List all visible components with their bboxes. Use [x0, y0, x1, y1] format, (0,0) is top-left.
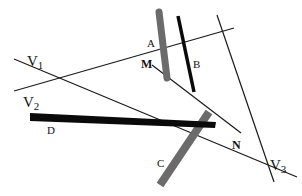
bar-d — [30, 113, 216, 128]
bar-a — [159, 12, 167, 78]
label-m: M — [141, 57, 152, 71]
label-b: B — [193, 58, 200, 70]
label-v2: V2 — [23, 94, 39, 112]
label-a: A — [147, 37, 155, 49]
label-c: C — [157, 157, 164, 169]
line-v2 — [14, 28, 234, 91]
diagram-canvas: V1 V2 V3 A B C D M N — [0, 0, 302, 196]
label-v3: V3 — [270, 157, 287, 175]
label-d: D — [47, 124, 55, 136]
line-v3-steep — [217, 15, 274, 182]
geometry-diagram: V1 V2 V3 A B C D M N — [0, 0, 302, 196]
label-v1: V1 — [27, 53, 43, 71]
label-n: N — [232, 138, 241, 152]
bar-b — [178, 16, 194, 92]
